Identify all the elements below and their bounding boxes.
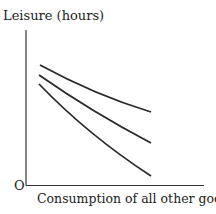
indifference-curve-low: [39, 84, 151, 176]
indifference-curve-high: [40, 65, 151, 112]
indifference-curve-mid: [39, 75, 151, 143]
diagram-canvas: [0, 0, 216, 214]
